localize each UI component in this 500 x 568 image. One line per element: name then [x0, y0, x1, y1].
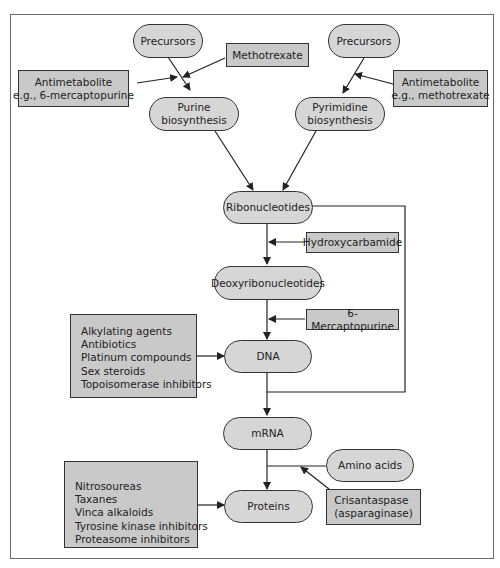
node-label: Ribonucleotides	[226, 201, 310, 214]
arrow-precursors-to-purine	[168, 57, 190, 90]
node-label-line: Purine	[161, 101, 226, 114]
dna-agent-item: Topoisomerase inhibitors	[81, 378, 212, 391]
box-label-line: Crisantaspase	[334, 494, 413, 507]
node-amino-acids: Amino acids	[326, 449, 414, 482]
node-label: DNA	[256, 350, 279, 363]
node-label-line: biosynthesis	[307, 114, 372, 127]
arrow-purine-to-ribonucleotides	[215, 131, 253, 190]
protein-agents-box: Nitrosoureas Taxanes Vinca alkaloids Tyr…	[64, 461, 198, 548]
protein-agent-item: Taxanes	[75, 493, 117, 506]
node-label: Deoxyribonucleotides	[211, 277, 325, 290]
protein-agent-item: Vinca alkaloids	[75, 506, 153, 519]
dna-agent-item: Platinum compounds	[81, 351, 192, 364]
inhibitor-antimetabolite-right: Antimetabolite e.g., methotrexate	[393, 70, 488, 107]
node-label-line: biosynthesis	[161, 114, 226, 127]
arrow-crisantaspase-inhibits	[301, 467, 329, 489]
node-dna: DNA	[224, 340, 312, 373]
protein-agent-item: Tyrosine kinase inhibitors	[75, 520, 208, 533]
box-label: 6-Mercaptopurine	[307, 307, 398, 333]
box-label: Hydroxycarbamide	[303, 236, 402, 249]
node-label: Precursors	[140, 35, 195, 48]
node-pyrimidine-biosynthesis: Pyrimidine biosynthesis	[295, 97, 385, 131]
arrow-antimetabolite-inhibits-pyrimidine	[355, 74, 393, 84]
inhibitor-crisantaspase: Crisantaspase (asparaginase)	[326, 489, 421, 525]
box-label: Methotrexate	[232, 49, 302, 62]
inhibitor-hydroxycarbamide: Hydroxycarbamide	[306, 232, 399, 253]
inhibitor-antimetabolite-left: Antimetabolite e.g., 6-mercaptopurine	[18, 70, 129, 107]
arrow-antimetabolite-inhibits-purine	[137, 77, 177, 83]
node-label: Precursors	[336, 35, 391, 48]
node-purine-biosynthesis: Purine biosynthesis	[149, 97, 239, 131]
dna-agent-item: Antibiotics	[81, 338, 136, 351]
node-ribonucleotides: Ribonucleotides	[223, 191, 313, 224]
dna-agent-item: Alkylating agents	[81, 325, 172, 338]
box-label-line: Antimetabolite	[13, 76, 134, 89]
box-label-line: Antimetabolite	[391, 76, 489, 89]
dna-agent-item: Sex steroids	[81, 365, 145, 378]
node-mrna: mRNA	[223, 417, 312, 450]
node-deoxyribonucleotides: Deoxyribonucleotides	[214, 266, 322, 300]
node-precursors-left: Precursors	[133, 24, 203, 58]
box-label-line: (asparaginase)	[334, 507, 413, 520]
node-label-line: Pyrimidine	[307, 101, 372, 114]
inhibitor-6-mercaptopurine: 6-Mercaptopurine	[306, 309, 399, 330]
protein-agent-item: Proteasome inhibitors	[75, 533, 190, 546]
node-proteins: Proteins	[224, 490, 313, 523]
dna-agents-box: Alkylating agents Antibiotics Platinum c…	[70, 314, 197, 398]
node-label: Proteins	[247, 500, 289, 513]
arrow-methotrexate-inhibits-purine	[183, 58, 225, 77]
node-label: mRNA	[251, 427, 284, 440]
box-label-line: e.g., methotrexate	[391, 89, 489, 102]
node-label: Amino acids	[338, 459, 402, 472]
node-precursors-right: Precursors	[328, 24, 400, 58]
arrow-pyrimidine-to-ribonucleotides	[283, 131, 316, 190]
inhibitor-methotrexate: Methotrexate	[226, 43, 309, 67]
protein-agent-item: Nitrosoureas	[75, 480, 141, 493]
box-label-line: e.g., 6-mercaptopurine	[13, 89, 134, 102]
